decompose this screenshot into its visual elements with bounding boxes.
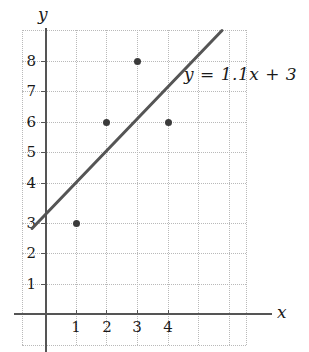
data-point (73, 220, 80, 227)
data-point (103, 119, 110, 126)
regression-line (32, 31, 222, 229)
chart-figure: 8 7 6 5 4 3 2 1 1 2 3 4 y x y = 1.1x + 3 (0, 0, 309, 352)
data-point (165, 119, 172, 126)
data-point (134, 58, 141, 65)
data-layer (0, 0, 309, 352)
equation-annotation: y = 1.1x + 3 (184, 64, 297, 84)
